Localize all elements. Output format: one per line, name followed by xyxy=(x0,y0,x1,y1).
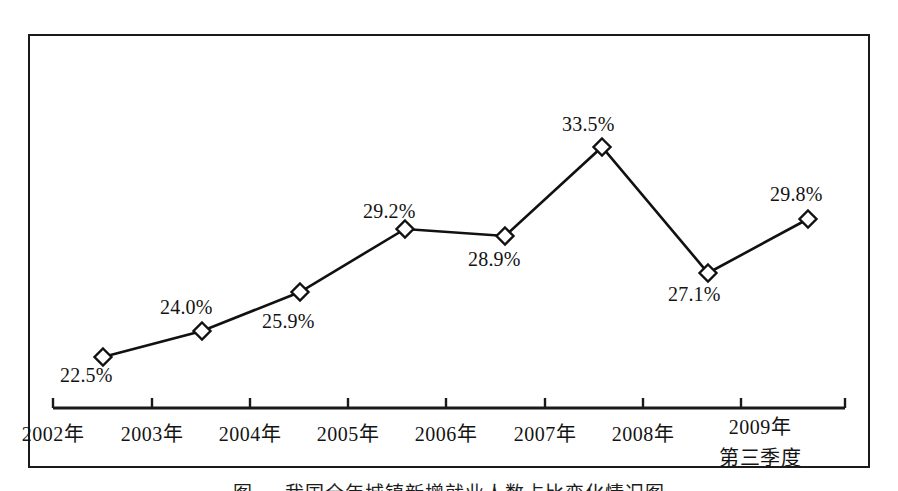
x-axis-label-year: 2002年 xyxy=(22,423,85,445)
x-axis-label-year: 2003年 xyxy=(121,423,184,445)
x-axis-label-3: 2004年 xyxy=(200,418,300,447)
chart-frame-border xyxy=(28,34,870,468)
x-axis-label-quarter: 第三季度 xyxy=(710,442,810,471)
x-axis-label-year: 2009年 xyxy=(729,416,792,438)
data-value-label: 29.8% xyxy=(770,183,823,206)
data-value-label: 33.5% xyxy=(562,113,615,136)
x-axis-label-7: 2008年 xyxy=(593,418,693,447)
x-axis-label-2: 2003年 xyxy=(102,418,202,447)
x-axis-label-5: 2006年 xyxy=(396,418,496,447)
data-value-label: 24.0% xyxy=(160,296,213,319)
x-axis-label-1: 2002年 xyxy=(3,418,103,447)
data-value-label: 28.9% xyxy=(468,248,521,271)
data-value-label: 25.9% xyxy=(262,310,315,333)
x-axis-label-year: 2005年 xyxy=(317,423,380,445)
figure-root: 22.5%24.0%25.9%29.2%28.9%33.5%27.1%29.8%… xyxy=(0,0,898,491)
data-value-label: 27.1% xyxy=(668,283,721,306)
x-axis-label-year: 2006年 xyxy=(415,423,478,445)
x-axis-label-6: 2007年 xyxy=(495,418,595,447)
data-value-label: 22.5% xyxy=(60,364,113,387)
x-axis-label-year: 2004年 xyxy=(219,423,282,445)
data-value-label: 29.2% xyxy=(363,200,416,223)
figure-caption: 图 一 我国全年城镇新增就业人数占比变化情况图 xyxy=(0,478,898,491)
x-axis-label-4: 2005年 xyxy=(298,418,398,447)
x-axis-label-year: 2007年 xyxy=(514,423,577,445)
x-axis-label-year: 2008年 xyxy=(612,423,675,445)
x-axis-label-8: 2009年第三季度 xyxy=(710,411,810,471)
